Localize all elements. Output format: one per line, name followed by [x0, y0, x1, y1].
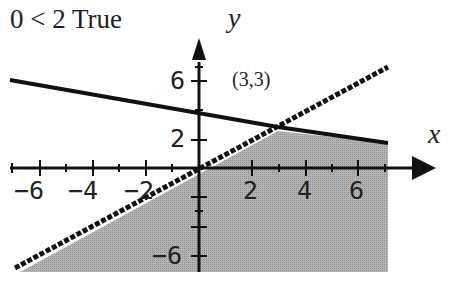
plot-area	[0, 0, 454, 284]
y-axis-arrow-icon	[192, 38, 206, 60]
x-axis-arrow-icon	[412, 156, 436, 180]
x-tick-label: 4	[297, 176, 312, 205]
x-tick-label: −6	[14, 176, 44, 205]
y-tick-label: −6	[152, 241, 182, 270]
inequality-graph: 0 < 2 True y x (3,3)	[0, 0, 454, 284]
x-tick-label: 2	[243, 176, 258, 205]
x-tick-label: −2	[124, 176, 154, 205]
x-tick-label: −4	[68, 176, 98, 205]
x-tick-label: 6	[349, 176, 364, 205]
y-tick-label: 2	[170, 124, 185, 153]
y-tick-label: 6	[170, 66, 185, 95]
